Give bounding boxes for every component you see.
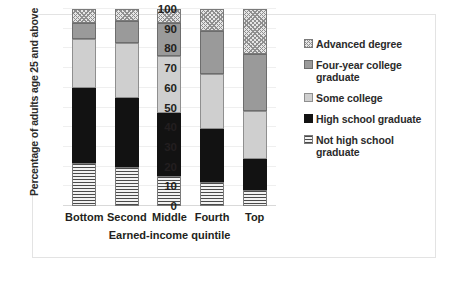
bar-segment[interactable]: [200, 129, 224, 182]
bar-segment[interactable]: [72, 163, 96, 206]
bar-column[interactable]: [115, 9, 139, 206]
bar-segment[interactable]: [115, 21, 139, 43]
y-tick-label: 40: [143, 121, 177, 133]
legend-label: High school graduate: [316, 113, 421, 125]
x-tick-label: Second: [106, 211, 149, 223]
legend-swatch-icon: [304, 60, 313, 69]
bar-segment[interactable]: [72, 88, 96, 163]
y-tick-label: 10: [143, 180, 177, 192]
bar-segment[interactable]: [243, 54, 267, 111]
bar-segment[interactable]: [115, 43, 139, 98]
y-tick-label: 60: [143, 82, 177, 94]
y-tick-label: 20: [143, 161, 177, 173]
bar-segment[interactable]: [243, 111, 267, 158]
legend-item[interactable]: Four-year college graduate: [304, 59, 434, 83]
x-axis-tick-labels: BottomSecondMiddleFourthTop: [63, 211, 276, 223]
legend-label: Advanced degree: [316, 38, 402, 50]
x-axis-title: Earned-income quintile: [63, 229, 276, 241]
legend-swatch-icon: [304, 135, 313, 144]
y-tick-label: 0: [143, 200, 177, 212]
legend-item[interactable]: High school graduate: [304, 113, 434, 125]
bar-column[interactable]: [243, 9, 267, 206]
legend-label: Four-year college graduate: [316, 59, 434, 83]
x-tick-label: Middle: [148, 211, 191, 223]
y-tick-label: 80: [143, 42, 177, 54]
bar-segment[interactable]: [243, 159, 267, 191]
legend-label: Some college: [316, 92, 383, 104]
bar-segment[interactable]: [115, 98, 139, 167]
bar-segment[interactable]: [200, 74, 224, 129]
bar-segment[interactable]: [200, 31, 224, 74]
bar-segment[interactable]: [115, 9, 139, 21]
legend-swatch-icon: [304, 39, 313, 48]
bar-segment[interactable]: [243, 190, 267, 206]
bar-segment[interactable]: [200, 182, 224, 206]
chart-legend: Advanced degreeFour-year college graduat…: [304, 38, 434, 167]
bar-segment[interactable]: [72, 39, 96, 88]
legend-item[interactable]: Some college: [304, 92, 434, 104]
x-tick-label: Top: [233, 211, 276, 223]
legend-item[interactable]: Advanced degree: [304, 38, 434, 50]
y-tick-label: 70: [143, 62, 177, 74]
bar-column[interactable]: [200, 9, 224, 206]
legend-item[interactable]: Not high school graduate: [304, 134, 434, 158]
bar-segment[interactable]: [115, 167, 139, 206]
legend-swatch-icon: [304, 114, 313, 123]
bar-segment[interactable]: [72, 23, 96, 39]
legend-label: Not high school graduate: [316, 134, 434, 158]
x-tick-label: Bottom: [63, 211, 106, 223]
bar-column[interactable]: [72, 9, 96, 206]
x-tick-label: Fourth: [191, 211, 234, 223]
y-tick-label: 100: [143, 3, 177, 15]
bar-segment[interactable]: [72, 9, 96, 23]
stacked-bar-chart-figure: Percentage of adults age 25 and above Bo…: [0, 0, 459, 281]
y-axis-title: Percentage of adults age 25 and above: [28, 2, 40, 202]
y-tick-label: 50: [143, 102, 177, 114]
y-tick-label: 30: [143, 141, 177, 153]
bar-segment[interactable]: [243, 9, 267, 54]
bar-segment[interactable]: [200, 9, 224, 31]
legend-swatch-icon: [304, 93, 313, 102]
y-tick-label: 90: [143, 23, 177, 35]
